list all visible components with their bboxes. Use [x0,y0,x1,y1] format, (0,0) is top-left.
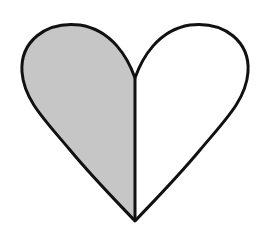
heart-svg [0,0,257,237]
heart-figure [0,0,257,237]
heart-left-half [22,25,135,221]
heart-right-half [135,25,248,221]
